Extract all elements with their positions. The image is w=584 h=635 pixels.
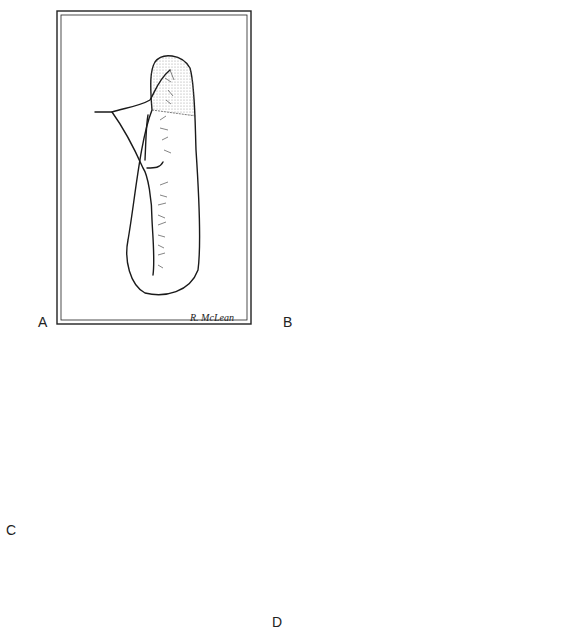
artist-signature: R. McLean (190, 312, 234, 323)
panel-label-a: A (38, 314, 47, 330)
panel-a (57, 11, 251, 324)
panel-label-c: C (6, 522, 16, 538)
panel-label-b: B (283, 314, 292, 330)
panel-label-d: D (272, 614, 282, 630)
